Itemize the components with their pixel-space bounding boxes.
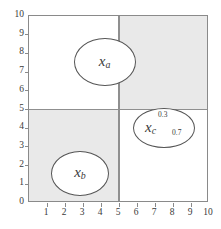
y-axis-tick-label: 4	[19, 122, 24, 132]
y-axis-tick-label: 1	[19, 179, 24, 189]
object-label-xa: xa	[99, 54, 111, 70]
y-axis-labels: 012345678910	[0, 15, 24, 202]
y-axis-tick	[25, 34, 29, 35]
object-label-xb: xb	[74, 165, 86, 181]
x-axis-labels: 12345678910	[28, 206, 208, 220]
y-axis-tick	[25, 109, 29, 110]
plot-inner: xa xb xc 0.3 0.7	[29, 16, 207, 201]
y-axis-tick-label: 7	[19, 66, 24, 76]
object-ellipse-xc: xc 0.3 0.7	[133, 108, 195, 148]
x-axis-tick-label: 10	[203, 208, 213, 218]
x-axis-tick-label: 8	[170, 208, 175, 218]
probability-label-lower: 0.7	[172, 129, 181, 137]
y-axis-tick	[25, 128, 29, 129]
y-axis-tick-label: 2	[19, 160, 24, 170]
y-axis-tick-label: 3	[19, 141, 24, 151]
y-axis-tick-label: 0	[19, 197, 24, 207]
plot-area: xa xb xc 0.3 0.7	[28, 15, 208, 202]
object-label-xc: xc	[145, 120, 156, 136]
probability-label-upper: 0.3	[158, 111, 167, 119]
y-axis-tick	[25, 184, 29, 185]
x-axis-tick-label: 7	[152, 208, 157, 218]
x-axis-tick-label: 9	[188, 208, 193, 218]
y-axis-tick	[25, 165, 29, 166]
x-axis-tick-label: 3	[80, 208, 85, 218]
object-ellipse-xa: xa	[74, 38, 136, 86]
y-axis-tick-label: 9	[19, 29, 24, 39]
x-axis-tick-label: 4	[98, 208, 103, 218]
y-axis-tick	[25, 146, 29, 147]
partition-figure: 012345678910 xa xb xc 0.3 0.7 1234567891…	[0, 0, 221, 229]
y-axis-tick-label: 5	[19, 104, 24, 114]
x-axis-tick-label: 2	[62, 208, 67, 218]
y-axis-tick	[25, 53, 29, 54]
y-axis-tick-label: 8	[19, 48, 24, 58]
object-ellipse-xb: xb	[51, 151, 109, 196]
x-axis-tick-label: 6	[134, 208, 139, 218]
x-axis-tick-label: 1	[44, 208, 49, 218]
x-axis-tick-label: 5	[116, 208, 121, 218]
y-axis-tick	[25, 72, 29, 73]
y-axis-tick-label: 6	[19, 85, 24, 95]
y-axis-tick	[25, 90, 29, 91]
y-axis-tick-label: 10	[15, 10, 25, 20]
